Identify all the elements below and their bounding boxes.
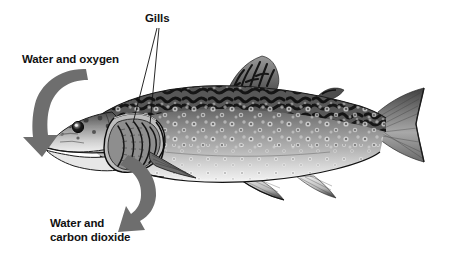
label-water-and-carbon-dioxide-line2: carbon dioxide bbox=[50, 231, 130, 243]
fish-respiration-svg: Gills Water and oxygen Water and carbon … bbox=[0, 0, 454, 261]
fish-eye bbox=[72, 121, 83, 132]
diagram-canvas: Gills Water and oxygen Water and carbon … bbox=[0, 0, 454, 261]
label-gills: Gills bbox=[145, 12, 169, 24]
label-water-and-oxygen: Water and oxygen bbox=[22, 53, 119, 65]
label-water-and-carbon-dioxide-line1: Water and bbox=[50, 217, 104, 229]
